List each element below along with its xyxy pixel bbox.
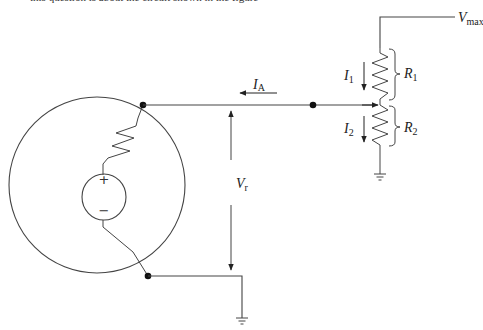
svg-text:IA: IA (252, 77, 266, 93)
ia-subscript: A (258, 82, 266, 93)
voltage-source: + − (82, 172, 126, 220)
svg-text:Vr: Vr (236, 176, 249, 193)
internal-resistor (103, 105, 143, 175)
resistor-r2 (372, 105, 388, 174)
voltage-vr: Vr (231, 111, 249, 270)
vmax-subscript: max (467, 16, 483, 27)
sensor-enclosure (9, 97, 185, 273)
current-ia: IA (240, 77, 277, 93)
circuit-diagram: + − IA Vr Vmax R1 R (0, 0, 483, 330)
svg-text:R2: R2 (403, 120, 418, 137)
resistor-r1 (372, 48, 388, 105)
svg-text:I1: I1 (343, 68, 354, 85)
svg-text:R1: R1 (403, 66, 418, 83)
i1-subscript: 1 (349, 74, 354, 85)
plus-sign: + (99, 172, 110, 187)
i2-subscript: 2 (349, 127, 354, 138)
ground-icon-sensor (236, 318, 248, 324)
r2-label: R (403, 120, 413, 135)
svg-text:I2: I2 (343, 121, 354, 138)
r2-subscript: 2 (413, 126, 418, 137)
vr-subscript: r (245, 182, 249, 193)
enclosure-circle (9, 97, 185, 273)
return-wire (148, 276, 242, 318)
r1-label: R (403, 66, 413, 81)
r2-brace-icon (389, 106, 400, 146)
r1-brace-icon (389, 49, 400, 100)
junction-node (310, 102, 317, 109)
svg-text:Vmax: Vmax (458, 10, 483, 27)
vmax-wire (380, 17, 455, 48)
r1-subscript: 1 (413, 72, 418, 83)
ground-icon-pot (374, 174, 386, 180)
source-return-wire (103, 220, 148, 276)
minus-sign: − (99, 203, 110, 218)
